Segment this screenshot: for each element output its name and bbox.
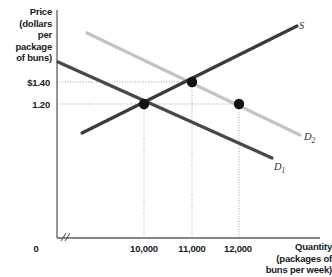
y-axis-title-line-5: of buns) [2, 52, 52, 64]
y-axis-title-line-4: package [2, 41, 52, 53]
x-tick-label-origin: 0 [28, 243, 44, 254]
curve-label-supply: S [299, 20, 304, 31]
axis-break-icon [61, 233, 70, 241]
curve-label-demand-1-sub: 1 [282, 166, 286, 175]
curve-label-demand-2-sub: 2 [312, 136, 316, 145]
y-axis-title: Price (dollars per package of buns) [2, 6, 52, 64]
x-axis-title-line-3: buns per week) [252, 264, 332, 276]
x-axis-title: Quantity (packages of buns per week) [252, 241, 332, 276]
y-tick-label-1-20: 1.20 [2, 99, 50, 110]
curve-label-supply-text: S [299, 20, 304, 31]
x-tick-label-11000: 11,000 [166, 243, 218, 254]
curve-demand-1 [58, 62, 272, 158]
point-initial-equilibrium [139, 99, 149, 109]
point-quantity-demanded-at-old-price [234, 99, 244, 109]
x-axis-title-line-2: (packages of [252, 253, 332, 265]
curve-label-demand-1-base: D [274, 161, 282, 172]
point-new-equilibrium [187, 77, 197, 87]
y-axis-title-line-3: per [2, 29, 52, 41]
y-axis-title-line-1: Price [2, 6, 52, 18]
curve-label-demand-2-base: D [304, 131, 312, 142]
curve-label-demand-1: D1 [274, 161, 285, 175]
curve-label-demand-2: D2 [304, 131, 315, 145]
x-tick-label-10000: 10,000 [118, 243, 170, 254]
x-axis-title-line-1: Quantity [252, 241, 332, 253]
y-tick-label-1-40: $1.40 [2, 77, 50, 88]
y-axis-title-line-2: (dollars [2, 18, 52, 30]
supply-demand-chart: Price (dollars per package of buns) $1.4… [0, 0, 332, 277]
